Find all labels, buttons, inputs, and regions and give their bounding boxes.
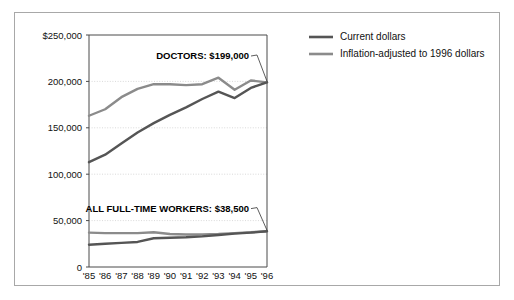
- y-axis-tick-label: 0: [77, 262, 82, 273]
- y-axis-tick-label: $250,000: [42, 30, 82, 41]
- x-axis-tick-label: '86: [99, 270, 111, 281]
- annotation-workers-leader-line: [251, 208, 267, 231]
- annotation-workers-label: ALL FULL-TIME WORKERS: $38,500: [86, 203, 249, 214]
- legend-label-current-dollars: Current dollars: [340, 31, 406, 42]
- x-axis-tick-label: '88: [131, 270, 143, 281]
- x-axis-tick-label: '89: [148, 270, 160, 281]
- chart-legend: Current dollars Inflation-adjusted to 19…: [309, 31, 485, 59]
- data-series-group: [89, 78, 267, 245]
- x-axis-tick-label: '85: [83, 270, 95, 281]
- x-axis-tick-label: '95: [245, 270, 257, 281]
- x-axis-tick-label: '96: [261, 270, 273, 281]
- annotation-doctors-leader-line: [251, 55, 267, 81]
- x-axis-tick-label: '90: [164, 270, 176, 281]
- y-axis-tick-label: 50,000: [53, 215, 82, 226]
- line-chart: 050,000100,000150,000200,000$250,000 '85…: [15, 13, 499, 285]
- x-axis-tick-label: '94: [228, 270, 240, 281]
- x-axis-tick-label: '91: [180, 270, 192, 281]
- y-axis-tick-label: 100,000: [48, 169, 82, 180]
- y-axis-tick-label: 200,000: [48, 76, 82, 87]
- x-axis-tick-label: '92: [196, 270, 208, 281]
- data-series-line: [89, 82, 267, 162]
- x-axis-tick-label: '87: [115, 270, 127, 281]
- legend-label-inflation-adjusted: Inflation-adjusted to 1996 dollars: [340, 48, 485, 59]
- x-axis-tick-labels: '85'86'87'88'89'90'91'92'93'94'95'96: [83, 270, 273, 281]
- x-axis-tick-label: '93: [212, 270, 224, 281]
- chart-figure: 050,000100,000150,000200,000$250,000 '85…: [14, 12, 500, 286]
- annotation-all-full-time-workers: ALL FULL-TIME WORKERS: $38,500: [86, 203, 267, 231]
- y-axis-tick-labels: 050,000100,000150,000200,000$250,000: [42, 30, 89, 273]
- y-axis-tick-label: 150,000: [48, 122, 82, 133]
- annotation-doctors-label: DOCTORS: $199,000: [156, 50, 249, 61]
- annotation-doctors: DOCTORS: $199,000: [156, 50, 267, 81]
